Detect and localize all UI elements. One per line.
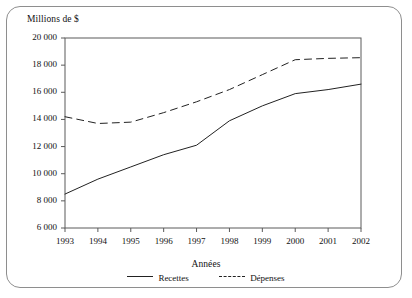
x-axis-title: Années	[0, 259, 412, 269]
legend-swatch-dashed-icon	[219, 276, 245, 277]
legend-item-depenses: Dépenses	[219, 272, 285, 283]
legend-swatch-solid-icon	[127, 276, 153, 277]
legend-item-recettes: Recettes	[127, 272, 189, 283]
chart-figure: Millions de $ 6 0008 00010 00012 00014 0…	[0, 0, 412, 298]
legend-label-depenses: Dépenses	[250, 273, 285, 283]
series-line-recettes	[65, 84, 361, 194]
legend-label-recettes: Recettes	[158, 273, 189, 283]
chart-legend: Recettes Dépenses	[0, 272, 412, 283]
plot-area	[0, 0, 412, 298]
